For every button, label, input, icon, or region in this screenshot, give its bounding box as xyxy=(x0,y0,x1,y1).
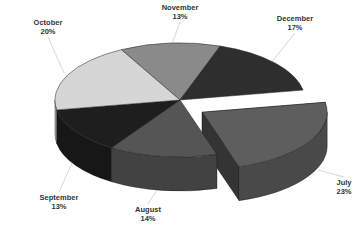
leader-line xyxy=(318,170,344,177)
slice-percent: 23% xyxy=(336,187,351,196)
slice-percent: 13% xyxy=(172,12,187,21)
slice-label: August xyxy=(135,205,161,214)
slice-label: July xyxy=(336,178,352,187)
slice-percent: 20% xyxy=(40,27,55,36)
slice-percent: 17% xyxy=(287,23,302,32)
slice-label: November xyxy=(162,3,199,12)
leader-line xyxy=(48,37,64,73)
slice-label: October xyxy=(34,18,63,27)
slice-label: December xyxy=(277,14,313,23)
slice-percent: 13% xyxy=(51,202,66,211)
pie-chart: November13%December17%July23%August14%Se… xyxy=(0,0,360,249)
leader-line xyxy=(172,22,180,44)
slice-label: September xyxy=(40,193,79,202)
leader-line xyxy=(59,163,72,192)
leader-line xyxy=(271,33,295,63)
slice-percent: 14% xyxy=(140,214,155,223)
